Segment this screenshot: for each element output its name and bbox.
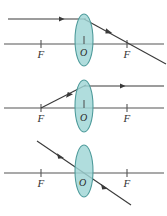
lens-ray-diagram-figure: F F O F F O xyxy=(0,0,167,216)
optical-centre-label-3: O xyxy=(79,177,86,188)
incident-ray-3-arrowhead xyxy=(57,153,64,159)
diagram-canvas: F F O F F O xyxy=(0,0,167,216)
refracted-ray-2-arrowhead xyxy=(120,83,126,88)
focus-label-left-1: F xyxy=(37,48,45,60)
focus-label-right-1: F xyxy=(123,48,131,60)
panel-2: F F O xyxy=(4,80,164,132)
focus-label-left-2: F xyxy=(37,112,45,124)
optical-centre-label-1: O xyxy=(80,47,87,58)
focus-label-right-2: F xyxy=(123,112,131,124)
converging-lens-3 xyxy=(75,145,93,197)
refracted-ray-3-arrowhead xyxy=(101,184,108,190)
optical-centre-label-2: O xyxy=(80,112,87,123)
focus-label-right-3: F xyxy=(123,177,131,189)
incident-ray-2-arrowhead xyxy=(66,92,73,98)
panel-3: F F O xyxy=(4,141,164,205)
focus-label-left-3: F xyxy=(37,177,45,189)
refracted-ray-1-arrowhead xyxy=(105,28,112,33)
panel-1: F F O xyxy=(4,14,166,66)
incident-ray-1-arrowhead xyxy=(59,16,65,21)
